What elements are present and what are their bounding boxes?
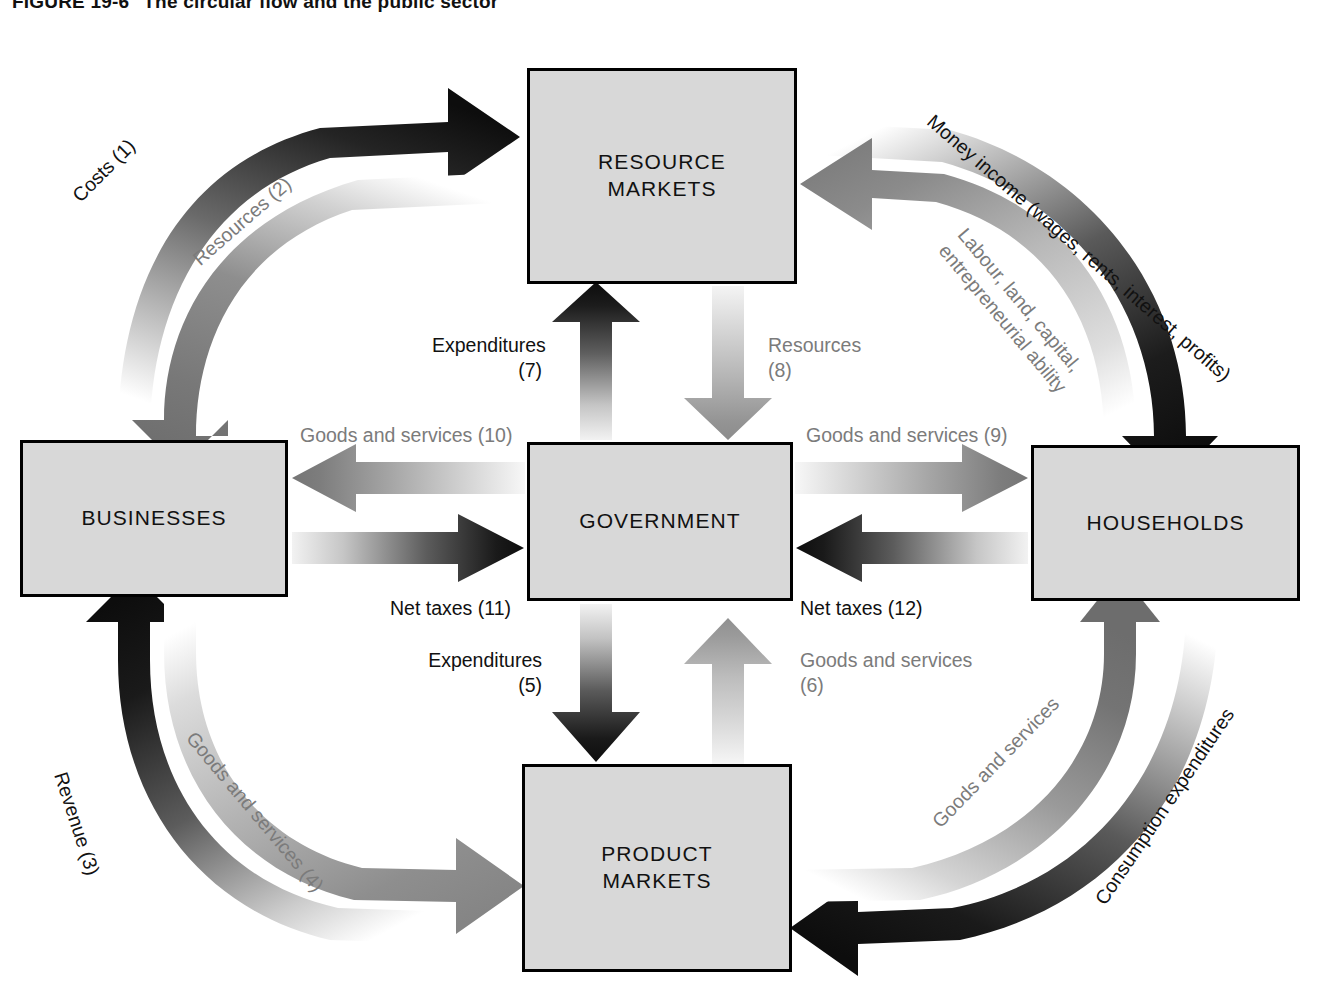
flow-label-expenditures-7-line2: (7) bbox=[432, 358, 542, 383]
node-households[interactable]: HOUSEHOLDS bbox=[1031, 445, 1300, 601]
flow-label-net-taxes-12: Net taxes (12) bbox=[800, 596, 922, 621]
flow-label-expenditures-7: Expenditures (7) bbox=[432, 333, 542, 384]
flow-label-net-taxes-11: Net taxes (11) bbox=[390, 596, 511, 621]
flow-arrow-resources-8 bbox=[684, 286, 772, 440]
node-product-markets[interactable]: PRODUCT MARKETS bbox=[522, 764, 792, 972]
flow-label-expenditures-5-line1: Expenditures bbox=[422, 648, 542, 673]
node-resource-markets-label: RESOURCE MARKETS bbox=[598, 149, 726, 203]
flow-label-goods-services-6-line2: (6) bbox=[800, 673, 972, 698]
node-government-label: GOVERNMENT bbox=[579, 508, 741, 535]
node-businesses[interactable]: BUSINESSES bbox=[20, 440, 288, 597]
figure-container: FIGURE 19-6The circular flow and the pub… bbox=[0, 0, 1320, 996]
flow-arrow-net-taxes-11 bbox=[292, 514, 524, 582]
node-households-label: HOUSEHOLDS bbox=[1086, 510, 1244, 537]
node-businesses-label: BUSINESSES bbox=[81, 505, 226, 532]
node-government[interactable]: GOVERNMENT bbox=[527, 442, 793, 601]
flow-label-resources-8-line2: (8) bbox=[768, 358, 861, 383]
node-product-markets-label: PRODUCT MARKETS bbox=[601, 841, 713, 895]
flow-label-expenditures-5-line2: (5) bbox=[422, 673, 542, 698]
flow-label-expenditures-7-line1: Expenditures bbox=[432, 333, 542, 358]
flow-arrow-goods-6 bbox=[684, 618, 772, 764]
flow-label-resources-8-line1: Resources bbox=[768, 333, 861, 358]
flow-label-goods-services-9: Goods and services (9) bbox=[806, 423, 1008, 448]
flow-arrow-expenditures-5 bbox=[552, 604, 640, 762]
node-resource-markets[interactable]: RESOURCE MARKETS bbox=[527, 68, 797, 284]
flow-label-goods-services-6: Goods and services (6) bbox=[800, 648, 972, 699]
flow-arrow-goods-10 bbox=[292, 444, 525, 512]
flow-arrow-goods-9 bbox=[795, 444, 1028, 512]
flow-label-expenditures-5: Expenditures (5) bbox=[422, 648, 542, 699]
flow-label-goods-services-6-line1: Goods and services bbox=[800, 648, 972, 673]
flow-label-resources-8: Resources (8) bbox=[768, 333, 861, 384]
flow-arrow-net-taxes-12 bbox=[796, 514, 1028, 582]
flow-arrow-expenditures-7 bbox=[552, 282, 640, 440]
flow-label-goods-services-10: Goods and services (10) bbox=[300, 423, 512, 448]
